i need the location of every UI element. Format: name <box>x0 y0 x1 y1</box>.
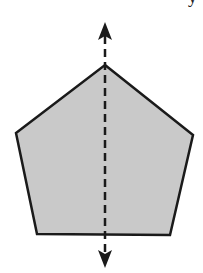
cropped-text-fragment: y <box>188 0 197 6</box>
arrowhead-down-icon <box>98 250 112 268</box>
diagram-canvas <box>0 0 203 273</box>
pentagon-symmetry-diagram: y <box>0 0 203 273</box>
